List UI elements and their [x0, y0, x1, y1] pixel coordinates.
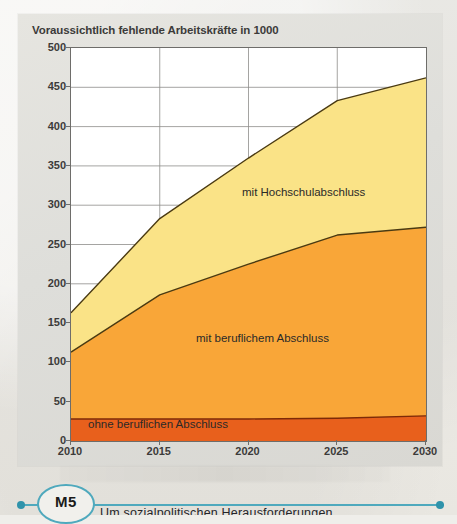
y-axis-tick-label: 150 — [26, 316, 66, 328]
x-axis-tick-label: 2030 — [413, 445, 437, 457]
y-axis-tick-label: 200 — [26, 277, 66, 289]
y-axis-tick-label: 450 — [26, 80, 66, 92]
x-axis-tick-label: 2020 — [235, 445, 259, 457]
x-axis-tick-mark — [336, 440, 337, 445]
plot-area — [70, 47, 427, 442]
x-axis-tick-label: 2015 — [147, 445, 171, 457]
stacked-area-svg — [71, 48, 426, 441]
y-axis-labels: 050100150200250300350400450500 — [22, 47, 66, 440]
x-axis-labels: 20102015202020252030 — [18, 445, 442, 465]
chart-figure: Voraussichtlich fehlende Arbeitskräfte i… — [18, 14, 442, 466]
rail-dot-left-icon — [17, 501, 25, 509]
series-label-mit-hochschulabschluss: mit Hochschulabschluss — [242, 186, 365, 198]
y-axis-tick-label: 500 — [26, 41, 66, 53]
material-badge-label: M5 — [37, 493, 95, 510]
x-axis-tick-mark — [425, 440, 426, 445]
y-axis-tick-label: 300 — [26, 198, 66, 210]
x-axis-tick-mark — [159, 440, 160, 445]
x-axis-tick-mark — [248, 440, 249, 445]
caption-text: Um sozialpolitischen Herausforderungen — [100, 506, 450, 515]
chart-title: Voraussichtlich fehlende Arbeitskräfte i… — [32, 24, 279, 36]
x-axis-tick-mark — [70, 440, 71, 445]
y-axis-tick-label: 400 — [26, 120, 66, 132]
x-axis-tick-label: 2025 — [324, 445, 348, 457]
y-axis-tick-label: 250 — [26, 238, 66, 250]
series-label-mit-beruflichem-abschluss: mit beruflichem Abschluss — [196, 332, 329, 344]
page-smudge — [60, 466, 390, 482]
x-axis-tick-label: 2010 — [58, 445, 82, 457]
y-axis-tick-label: 100 — [26, 355, 66, 367]
y-axis-tick-label: 50 — [26, 395, 66, 407]
series-label-ohne-beruflichen-abschluss: ohne beruflichen Abschluss — [88, 418, 228, 430]
y-axis-tick-label: 350 — [26, 159, 66, 171]
